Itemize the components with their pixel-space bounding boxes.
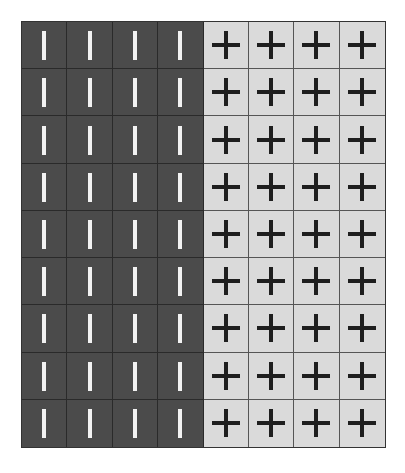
grid-cell-r7-c3 xyxy=(113,305,158,352)
grid-cell-r9-c7 xyxy=(294,400,339,447)
grid-cell-r4-c1 xyxy=(22,164,67,211)
plus-icon xyxy=(302,173,330,201)
plus-icon xyxy=(257,31,285,59)
grid-cell-r1-c3 xyxy=(113,22,158,69)
plus-icon xyxy=(257,362,285,390)
plus-icon xyxy=(302,362,330,390)
plus-icon xyxy=(348,126,376,154)
vertical-bar-icon xyxy=(178,126,182,155)
vertical-bar-icon xyxy=(178,31,182,60)
grid-cell-r2-c1 xyxy=(22,69,67,116)
plus-icon xyxy=(257,220,285,248)
grid-cell-r2-c6 xyxy=(249,69,294,116)
vertical-bar-icon xyxy=(178,409,182,438)
grid-cell-r5-c5 xyxy=(204,211,249,258)
vertical-bar-icon xyxy=(178,78,182,107)
grid-cell-r7-c4 xyxy=(158,305,203,352)
grid-cell-r8-c3 xyxy=(113,353,158,400)
grid-cell-r5-c3 xyxy=(113,211,158,258)
grid-cell-r6-c1 xyxy=(22,258,67,305)
grid-cell-r4-c7 xyxy=(294,164,339,211)
vertical-bar-icon xyxy=(133,267,137,296)
grid-cell-r2-c5 xyxy=(204,69,249,116)
vertical-bar-icon xyxy=(178,362,182,391)
vertical-bar-icon xyxy=(133,31,137,60)
plus-icon xyxy=(257,409,285,437)
vertical-bar-icon xyxy=(133,409,137,438)
grid-cell-r9-c5 xyxy=(204,400,249,447)
grid-cell-r7-c7 xyxy=(294,305,339,352)
grid-cell-r1-c1 xyxy=(22,22,67,69)
grid-cell-r3-c8 xyxy=(340,116,385,163)
vertical-bar-icon xyxy=(42,173,46,202)
grid-cell-r8-c1 xyxy=(22,353,67,400)
grid-cell-r4-c6 xyxy=(249,164,294,211)
grid-cell-r5-c8 xyxy=(340,211,385,258)
plus-icon xyxy=(302,267,330,295)
vertical-bar-icon xyxy=(88,409,92,438)
grid-cell-r8-c8 xyxy=(340,353,385,400)
grid-cell-r8-c4 xyxy=(158,353,203,400)
grid-cell-r5-c4 xyxy=(158,211,203,258)
grid-cell-r1-c2 xyxy=(67,22,112,69)
vertical-bar-icon xyxy=(88,220,92,249)
grid-cell-r6-c6 xyxy=(249,258,294,305)
vertical-bar-icon xyxy=(88,314,92,343)
plus-icon xyxy=(348,173,376,201)
grid-cell-r9-c8 xyxy=(340,400,385,447)
grid-cell-r5-c7 xyxy=(294,211,339,258)
grid-cell-r4-c8 xyxy=(340,164,385,211)
grid-cell-r9-c2 xyxy=(67,400,112,447)
vertical-bar-icon xyxy=(133,362,137,391)
grid-cell-r4-c2 xyxy=(67,164,112,211)
grid-cell-r9-c4 xyxy=(158,400,203,447)
grid-cell-r6-c2 xyxy=(67,258,112,305)
grid-cell-r1-c8 xyxy=(340,22,385,69)
grid-cell-r6-c5 xyxy=(204,258,249,305)
vertical-bar-icon xyxy=(88,78,92,107)
vertical-bar-icon xyxy=(88,173,92,202)
vertical-bar-icon xyxy=(42,362,46,391)
vertical-bar-icon xyxy=(42,78,46,107)
plus-icon xyxy=(348,78,376,106)
grid-cell-r6-c8 xyxy=(340,258,385,305)
plus-icon xyxy=(348,314,376,342)
plus-icon xyxy=(212,126,240,154)
grid-cell-r7-c5 xyxy=(204,305,249,352)
grid-cell-r8-c2 xyxy=(67,353,112,400)
grid-cell-r1-c6 xyxy=(249,22,294,69)
grid-cell-r7-c6 xyxy=(249,305,294,352)
vertical-bar-icon xyxy=(178,267,182,296)
grid-cell-r3-c4 xyxy=(158,116,203,163)
grid-cell-r9-c6 xyxy=(249,400,294,447)
plus-icon xyxy=(257,267,285,295)
grid-cell-r2-c8 xyxy=(340,69,385,116)
vertical-bar-icon xyxy=(178,220,182,249)
plus-icon xyxy=(302,126,330,154)
symbol-grid xyxy=(21,21,386,448)
grid-cell-r5-c6 xyxy=(249,211,294,258)
vertical-bar-icon xyxy=(88,362,92,391)
vertical-bar-icon xyxy=(42,314,46,343)
grid-cell-r6-c7 xyxy=(294,258,339,305)
grid-cell-r3-c1 xyxy=(22,116,67,163)
vertical-bar-icon xyxy=(133,220,137,249)
plus-icon xyxy=(257,173,285,201)
plus-icon xyxy=(302,31,330,59)
grid-cell-r4-c4 xyxy=(158,164,203,211)
plus-icon xyxy=(212,31,240,59)
vertical-bar-icon xyxy=(42,220,46,249)
vertical-bar-icon xyxy=(178,314,182,343)
grid-cell-r7-c2 xyxy=(67,305,112,352)
grid-cell-r9-c3 xyxy=(113,400,158,447)
vertical-bar-icon xyxy=(133,314,137,343)
grid-cell-r3-c5 xyxy=(204,116,249,163)
vertical-bar-icon xyxy=(88,31,92,60)
plus-icon xyxy=(302,409,330,437)
vertical-bar-icon xyxy=(178,173,182,202)
grid-cell-r2-c7 xyxy=(294,69,339,116)
plus-icon xyxy=(212,409,240,437)
grid-cell-r6-c3 xyxy=(113,258,158,305)
grid-cell-r1-c4 xyxy=(158,22,203,69)
plus-icon xyxy=(212,362,240,390)
